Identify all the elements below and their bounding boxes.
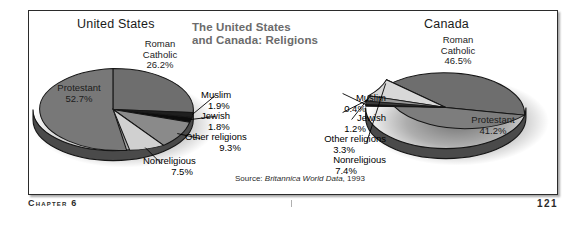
canada-label-protestant-name: Protestant <box>471 114 514 125</box>
page-footer: Chapter 6 121 <box>0 198 585 218</box>
us-label-muslim: Muslim 1.9% <box>201 90 265 111</box>
us-label-roman-catholic-pct: 26.2% <box>130 60 190 71</box>
canada-label-jewish-name: Jewish <box>357 112 386 123</box>
canada-label-protestant-pct: 41.2% <box>455 126 531 137</box>
us-label-other-religions-name: Other religions <box>185 131 247 142</box>
page-number: 121 <box>537 198 558 209</box>
us-slice-roman-catholic <box>113 68 193 112</box>
us-label-nonreligious-pct: 7.5% <box>143 167 221 178</box>
canada-label-jewish: Jewish 1.2% <box>324 113 386 134</box>
us-label-other-religions: Other religions 9.3% <box>185 132 275 153</box>
canada-label-muslim: Muslim 0.4% <box>324 93 386 114</box>
canada-label-muslim-name: Muslim <box>356 92 386 103</box>
canada-label-nonreligious-name: Nonreligious <box>333 154 386 165</box>
figure-frame: United States Canada The United States a… <box>28 10 558 195</box>
us-label-protestant-name: Protestant <box>57 82 100 93</box>
source-note: Source: Britannica World Data, 1993 <box>235 174 365 183</box>
us-label-jewish: Jewish 1.8% <box>201 111 265 132</box>
us-label-jewish-name: Jewish <box>201 110 230 121</box>
us-label-roman-catholic-name2: Catholic <box>143 49 177 60</box>
canada-label-other-religions: Other religions 3.3% <box>302 134 386 155</box>
source-title: Britannica World Data <box>265 174 343 183</box>
canada-label-roman-catholic-pct: 46.5% <box>428 56 488 67</box>
chapter-label: Chapter 6 <box>28 198 77 208</box>
canada-label-roman-catholic-name2: Catholic <box>441 45 475 56</box>
canada-label-roman-catholic: Roman Catholic 46.5% <box>428 35 488 67</box>
canada-label-nonreligious: Nonreligious 7.4% <box>306 155 386 176</box>
canada-chart-heading: Canada <box>424 17 469 31</box>
figure-title: The United States and Canada: Religions <box>192 21 342 46</box>
gutter-tick-mark <box>291 200 292 207</box>
us-label-muslim-name: Muslim <box>201 89 231 100</box>
canada-label-other-religions-name: Other religions <box>324 133 386 144</box>
canada-label-roman-catholic-name: Roman <box>443 34 474 45</box>
us-label-roman-catholic-name: Roman <box>145 38 176 49</box>
source-prefix: Source: <box>235 174 265 183</box>
us-label-nonreligious: Nonreligious 7.5% <box>143 156 221 177</box>
canada-label-protestant: Protestant 41.2% <box>455 115 531 136</box>
source-year: , 1993 <box>343 174 365 183</box>
us-label-other-religions-pct: 9.3% <box>185 143 275 154</box>
us-label-roman-catholic: Roman Catholic 26.2% <box>130 39 190 71</box>
us-label-protestant-pct: 52.7% <box>41 94 117 105</box>
figure-title-line1: The United States <box>192 21 291 33</box>
us-label-protestant: Protestant 52.7% <box>41 83 117 104</box>
us-label-nonreligious-name: Nonreligious <box>143 155 196 166</box>
figure-title-line2: and Canada: Religions <box>192 34 318 46</box>
us-chart-heading: United States <box>77 17 155 31</box>
